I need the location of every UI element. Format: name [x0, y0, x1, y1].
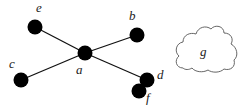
node-d	[140, 73, 155, 88]
label-c: c	[9, 56, 15, 71]
label-g: g	[200, 44, 207, 59]
cloud-g: g	[176, 26, 237, 72]
node-e	[28, 20, 43, 35]
label-d: d	[157, 67, 164, 82]
edge-a-b	[85, 35, 137, 53]
node-a	[78, 46, 93, 61]
label-b: b	[129, 8, 136, 23]
node-b	[130, 28, 145, 43]
cloud-shape	[176, 26, 237, 72]
node-c	[14, 73, 29, 88]
edge-a-e	[35, 27, 85, 53]
label-e: e	[36, 0, 42, 15]
label-f: f	[146, 90, 152, 105]
graph-diagram: e b a c d f g	[0, 0, 249, 111]
nodes	[14, 20, 155, 99]
label-a: a	[76, 62, 83, 77]
edge-a-d	[85, 53, 147, 80]
